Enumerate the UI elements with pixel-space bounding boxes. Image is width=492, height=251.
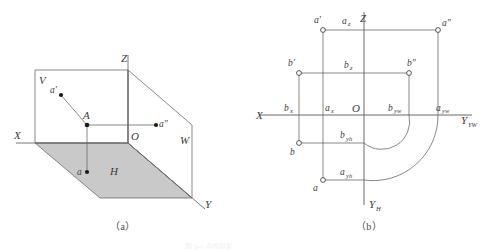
figure-root: V H W Z X Y O a′ A a″ a （a） [0,0,492,251]
figure-panel-b: Z X Y YW Y H O a′ a″ a b′ b″ b a z [246,0,492,251]
label-mark-bx-sub: x [289,107,293,114]
point-b-marker [297,141,302,146]
label-plane-h: H [109,165,119,177]
label-point-a-double-prime: a″ [442,18,452,28]
label-mark-bz: b z [344,60,353,71]
label-plane-v: V [39,74,47,86]
label-mark-ax-sub: x [330,107,334,114]
label-mark-byh: b yh [340,130,352,142]
label-mark-ayw-main: a [436,103,441,113]
label-mark-az-sub: z [347,20,351,27]
label-axis-x: X [255,109,264,121]
label-mark-byw-sub: yw [393,107,402,114]
v-plane-surface [35,70,128,143]
transfer-arc-b [364,115,410,149]
label-point-a-prime: a′ [314,15,322,25]
label-mark-bx-main: b [284,103,289,113]
label-mark-bz-sub: z [349,64,353,71]
label-axis-z: Z [121,52,128,64]
label-axis-y-yw: Y YW [461,114,478,128]
label-axis-z: Z [360,12,367,24]
label-origin-o: O [131,130,139,142]
label-point-b-double-prime: b″ [407,58,417,68]
label-mark-ayh-sub: yh [345,172,352,179]
point-a-prime-marker [59,93,63,97]
label-point-A: A [82,109,90,121]
label-axis-x: X [13,129,22,141]
label-point-b: b [290,147,295,157]
label-mark-ax-main: a [325,103,330,113]
label-axis-y-h: Y H [369,198,381,212]
label-mark-ayh: a yh [340,167,352,179]
label-mark-ayh-main: a [340,167,345,177]
label-mark-bx: b x [284,103,293,114]
orthographic-projection-diagram: Z X Y YW Y H O a′ a″ a b′ b″ b a z [246,0,492,251]
label-mark-byw-main: b [388,103,393,113]
point-a-marker [85,170,89,174]
label-mark-byh-sub: yh [345,135,352,142]
label-point-a-prime: a′ [50,85,58,95]
point-b-prime-marker [297,71,302,76]
label-mark-byh-main: b [340,130,345,140]
label-mark-az-main: a [342,16,347,26]
label-plane-w: W [180,134,190,146]
point-a-double-prime-marker [154,123,158,127]
figure-panel-a: V H W Z X Y O a′ A a″ a （a） [0,0,246,251]
label-axis-y-yw-sub: YW [468,121,478,128]
label-origin-o: O [352,102,360,114]
label-axis-y: Y [205,198,213,210]
caption-panel-a: （a） [0,218,246,233]
point-A-marker [85,123,90,128]
point-a-double-prime-marker [436,28,441,33]
label-mark-bz-main: b [344,60,349,70]
point-a-prime-marker [321,28,326,33]
transfer-arc-a [364,115,438,181]
label-point-a: a [313,183,318,193]
label-point-b-prime: b′ [288,58,296,68]
caption-panel-b: （b） [246,218,492,233]
point-b-double-prime-marker [407,71,412,76]
figure-title-faint: 图 3-4 点的投影 [185,241,325,249]
label-point-a-double-prime: a″ [159,119,169,129]
point-a-marker [321,178,326,183]
label-mark-ayw-sub: yw [441,107,450,114]
label-mark-az: a z [342,16,351,27]
pictorial-projection-diagram: V H W Z X Y O a′ A a″ a [0,0,246,251]
label-axis-y-h-sub: H [375,205,381,212]
label-mark-ayw: a yw [436,103,450,114]
label-mark-ax: a x [325,103,334,114]
label-mark-byw: b yw [388,103,402,114]
label-point-a: a [77,167,82,177]
